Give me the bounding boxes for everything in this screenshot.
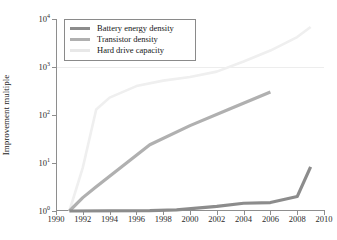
y-tick-label: 104 [39,15,51,24]
legend-swatch-icon [70,38,90,41]
chart-legend: Battery energy densityTransistor density… [64,19,196,61]
y-tick-label: 102 [39,111,51,120]
x-tick-label: 1998 [155,215,172,224]
x-tick-label: 1990 [48,215,65,224]
legend-item[interactable]: Battery energy density [70,23,190,34]
legend-item[interactable]: Hard drive capacity [70,45,190,56]
x-tick-label: 2008 [289,215,306,224]
y-tick-label: 103 [39,63,51,72]
x-tick-label: 1996 [128,215,145,224]
legend-item-label: Battery energy density [97,24,174,33]
legend-item[interactable]: Transistor density [70,34,190,45]
y-axis-title: Improvement multiple [1,75,11,156]
series-line [69,92,270,211]
x-tick-label: 2004 [235,215,252,224]
x-tick-label: 1994 [101,215,118,224]
y-tick-label: 101 [39,159,51,168]
chart-container: Improvement multiple 1001011021031041990… [0,0,337,240]
x-tick-label: 2010 [316,215,333,224]
series-line [69,167,310,211]
legend-swatch-icon [70,27,90,30]
x-tick-label: 1992 [74,215,91,224]
legend-item-label: Transistor density [97,35,158,44]
legend-item-label: Hard drive capacity [97,46,164,55]
x-tick-label: 2002 [208,215,225,224]
x-tick-label: 2006 [262,215,279,224]
x-tick-label: 2000 [182,215,199,224]
legend-swatch-icon [70,49,90,52]
